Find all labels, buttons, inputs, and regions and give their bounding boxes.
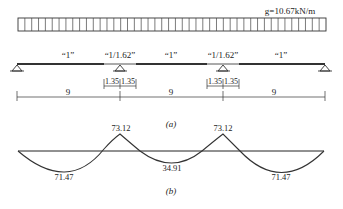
distributed-load bbox=[18, 18, 326, 31]
span-factor-label: “1” bbox=[165, 50, 178, 60]
span-factor-label: “1” bbox=[275, 50, 288, 60]
pin-support-icon bbox=[10, 65, 24, 71]
span-moment-label: 71.47 bbox=[54, 172, 73, 182]
continuous-beam-diagram: g=10.67kN/m “1” “1/1.62” “1” “1/1.62” “1… bbox=[0, 0, 343, 209]
span-moment-label: 71.47 bbox=[271, 172, 290, 182]
supports bbox=[10, 65, 332, 71]
load-block bbox=[18, 18, 326, 31]
pin-support-icon bbox=[216, 65, 230, 71]
pin-support-icon bbox=[113, 65, 127, 71]
support-moment-label: 73.12 bbox=[213, 123, 232, 133]
span-moment-label: 34.91 bbox=[162, 163, 181, 173]
hinge-offset-label: 1.35 bbox=[224, 77, 238, 86]
span-factor-label: “1/1.62” bbox=[208, 50, 239, 60]
pin-support-icon bbox=[318, 65, 332, 71]
hinge-offset-label: 1.35 bbox=[121, 77, 135, 86]
span-length-label: 9 bbox=[66, 87, 71, 97]
load-divider-lines bbox=[25, 18, 319, 31]
hinge-offset-label: 1.35 bbox=[208, 77, 222, 86]
span-length-label: 9 bbox=[272, 87, 277, 97]
span-factor-label: “1” bbox=[62, 50, 75, 60]
support-moment-label: 73.12 bbox=[111, 123, 130, 133]
span-factor-label: “1/1.62” bbox=[105, 50, 136, 60]
caption-a: (a) bbox=[166, 119, 177, 129]
load-label: g=10.67kN/m bbox=[265, 6, 315, 16]
hinge-offset-label: 1.35 bbox=[105, 77, 119, 86]
span-length-label: 9 bbox=[169, 87, 174, 97]
caption-b: (b) bbox=[166, 186, 177, 196]
